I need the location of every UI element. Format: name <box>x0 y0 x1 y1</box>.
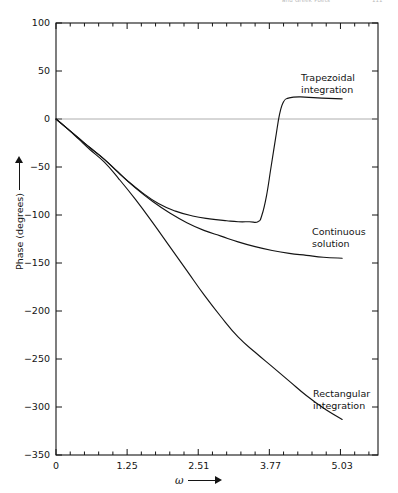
y-tick-label-2: 0 <box>8 114 50 124</box>
y-tick-label-8: −300 <box>8 402 50 412</box>
annotation-rectangular-line2: integration <box>313 400 370 412</box>
y-axis-label: Phase (degrees) <box>11 138 27 288</box>
x-axis-label-text: ω <box>175 474 184 486</box>
series-curve-0 <box>56 97 342 222</box>
x-tick-label-1: 1.25 <box>107 461 147 471</box>
annotation-continuous-line1: Continuous <box>312 226 366 238</box>
annotation-continuous-line2: solution <box>312 238 366 250</box>
annotation-rectangular-integration: Rectangular integration <box>313 388 370 411</box>
y-tick-label-6: −200 <box>8 306 50 316</box>
annotation-trapezoidal-line2: integration <box>301 84 355 96</box>
x-tick-label-2: 2.51 <box>179 461 219 471</box>
x-tick-label-4: 5.03 <box>322 461 362 471</box>
x-axis-arrow-icon <box>188 476 222 485</box>
y-tick-label-7: −250 <box>8 354 50 364</box>
annotation-trapezoidal-line1: Trapezoidal <box>301 72 355 84</box>
y-tick-label-9: −350 <box>8 450 50 460</box>
y-tick-label-0: 100 <box>8 18 50 28</box>
annotation-rectangular-line1: Rectangular <box>313 388 370 400</box>
x-axis-label: ω <box>175 474 222 486</box>
x-tick-label-0: 0 <box>36 461 76 471</box>
y-tick-label-1: 50 <box>8 66 50 76</box>
data-series-group <box>56 97 342 420</box>
series-curve-1 <box>56 119 342 258</box>
series-curve-2 <box>56 119 342 419</box>
phase-plot-figure: 100500−50−100−150−200−250−300−350 01.252… <box>0 0 398 493</box>
annotation-trapezoidal-integration: Trapezoidal integration <box>301 72 355 95</box>
y-axis-arrow-icon <box>15 156 24 190</box>
annotation-continuous-solution: Continuous solution <box>312 226 366 249</box>
y-axis-label-text: Phase (degrees) <box>14 193 25 270</box>
x-tick-label-3: 3.77 <box>250 461 290 471</box>
